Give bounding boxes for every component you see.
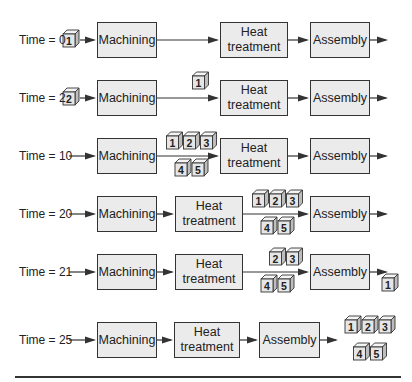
part-number: 2 (273, 195, 279, 207)
arrow-right-icon (377, 37, 388, 44)
part-number: 3 (290, 195, 296, 207)
cube-icon: 5 (278, 217, 294, 234)
arrow-right-icon (377, 95, 388, 102)
box-label-line: Heat (228, 141, 281, 156)
part-number: 1 (196, 77, 202, 89)
part-number: 5 (195, 164, 201, 176)
cube-icon: 1 (382, 274, 398, 291)
arrow-right-icon (298, 153, 309, 160)
cube-icon: 5 (192, 159, 208, 176)
box-label: Assembly (313, 207, 367, 222)
machining-box: Machining (97, 138, 157, 174)
box-label-line: Heat (183, 257, 236, 272)
cube-icon: 2 (270, 190, 286, 207)
heat-treatment-box: Heattreatment (220, 22, 288, 58)
box-label: Assembly (313, 91, 367, 106)
arrow-right-icon (85, 37, 96, 44)
arrow-right-icon (247, 337, 258, 344)
arrow-right-icon (208, 153, 219, 160)
box-label: Machining (99, 333, 156, 348)
box-label-line: treatment (228, 40, 281, 55)
box-label: Assembly (262, 333, 316, 348)
arrow-right-icon (85, 269, 96, 276)
arrow-right-icon (298, 95, 309, 102)
cube-icon: 5 (278, 275, 294, 292)
cube-icon: 1 (253, 190, 269, 207)
cube-icon: 2 (270, 248, 286, 265)
box-label-line: treatment (183, 272, 236, 287)
cube-icon: 1 (345, 316, 361, 333)
arrow-right-icon (85, 211, 96, 218)
arrow-right-icon (85, 95, 96, 102)
part-number: 2 (187, 137, 193, 149)
cube-icon: 3 (201, 132, 217, 149)
machining-box: Machining (97, 22, 157, 58)
box-label: Machining (99, 265, 156, 280)
part-number: 5 (374, 348, 380, 360)
cube-icon: 1 (193, 72, 209, 89)
part-number: 5 (281, 222, 287, 234)
cube-icon: 4 (354, 343, 370, 360)
time-label: Time = 0 (19, 33, 66, 47)
part-number: 4 (357, 348, 363, 360)
heat-treatment-box: Heattreatment (220, 138, 288, 174)
box-label: Assembly (313, 33, 367, 48)
assembly-box: Assembly (310, 22, 370, 58)
part-number: 1 (66, 35, 72, 47)
box-label-line: Heat (228, 25, 281, 40)
machining-box: Machining (97, 254, 157, 290)
time-label: Time = 20 (19, 207, 72, 221)
box-label-line: treatment (181, 340, 234, 355)
box-label: Machining (99, 149, 156, 164)
assembly-box: Assembly (310, 80, 370, 116)
heat-treatment-box: Heattreatment (174, 322, 240, 358)
machining-box: Machining (97, 196, 157, 232)
arrow-right-icon (85, 337, 96, 344)
box-label-line: Heat (183, 199, 236, 214)
part-number: 3 (204, 137, 210, 149)
assembly-box: Assembly (310, 138, 370, 174)
assembly-box: Assembly (310, 196, 370, 232)
bottom-rule (15, 376, 401, 378)
time-label: Time = 2 (19, 91, 66, 105)
assembly-box: Assembly (310, 254, 370, 290)
cube-icon: 1 (167, 132, 183, 149)
box-label: Assembly (313, 265, 367, 280)
time-label: Time = 25 (19, 333, 72, 347)
cube-icon: 2 (362, 316, 378, 333)
part-number: 1 (256, 195, 262, 207)
part-number: 5 (281, 280, 287, 292)
box-label: Machining (99, 33, 156, 48)
cube-icon: 5 (371, 343, 387, 360)
arrow-right-icon (298, 37, 309, 44)
part-number: 3 (382, 321, 388, 333)
arrow-right-icon (163, 211, 174, 218)
part-number: 2 (66, 93, 72, 105)
box-label-line: Heat (181, 325, 234, 340)
arrow-right-icon (208, 95, 219, 102)
arrow-right-icon (163, 269, 174, 276)
heat-treatment-box: Heattreatment (175, 196, 243, 232)
box-label-line: treatment (228, 156, 281, 171)
box-label-line: treatment (183, 214, 236, 229)
box-label-line: treatment (228, 98, 281, 113)
arrow-right-icon (327, 337, 338, 344)
arrow-right-icon (298, 269, 309, 276)
cube-icon: 2 (184, 132, 200, 149)
cube-icon: 3 (287, 248, 303, 265)
box-label: Assembly (313, 149, 367, 164)
time-label: Time = 10 (19, 149, 72, 163)
machining-box: Machining (97, 80, 157, 116)
arrow-right-icon (298, 211, 309, 218)
assembly-box: Assembly (259, 322, 320, 358)
part-number: 2 (273, 253, 279, 265)
part-number: 4 (264, 222, 270, 234)
part-number: 3 (290, 253, 296, 265)
box-label: Machining (99, 207, 156, 222)
cube-icon: 3 (379, 316, 395, 333)
cube-icon: 4 (261, 217, 277, 234)
time-label: Time = 21 (19, 265, 72, 279)
part-number: 2 (365, 321, 371, 333)
arrow-right-icon (208, 37, 219, 44)
machining-box: Machining (97, 322, 157, 358)
